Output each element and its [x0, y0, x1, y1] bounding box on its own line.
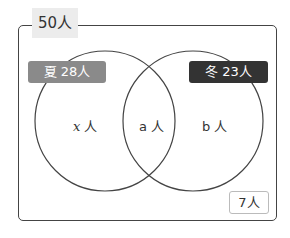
- winter-set-label: 冬 23人: [189, 61, 268, 83]
- unit-label: 人: [84, 119, 97, 134]
- region-both: a 人: [139, 116, 164, 135]
- region-only-summer: x 人: [73, 116, 97, 135]
- region-only-winter: b 人: [202, 116, 227, 135]
- region-neither: 7人: [229, 191, 269, 214]
- variable-x: x: [73, 119, 80, 134]
- summer-set-label: 夏 28人: [28, 61, 106, 83]
